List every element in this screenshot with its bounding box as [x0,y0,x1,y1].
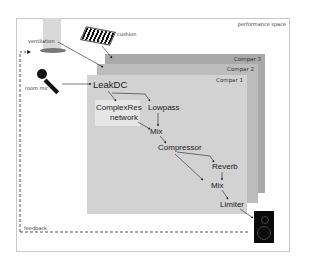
speaker-icon [254,211,274,243]
node-mix-1: Mix [150,127,162,136]
node-limiter: Limiter [220,200,244,209]
cushion-label: cushion [117,31,136,37]
node-lowpass: Lowpass [148,103,180,112]
node-compressor: Compressor [158,143,202,152]
node-reverb: Reverb [212,162,238,171]
microphone-icon [37,69,47,79]
ventilation-label: ventilation [28,38,55,44]
feedback-label: feedback [24,225,47,231]
node-complexres-line1: ComplexRes [96,103,142,112]
node-complexres-line2: network [110,113,138,122]
node-leakdc: LeakDC [93,79,127,90]
compar-3-label: Compar 3 [234,56,261,62]
ventilation-icon [43,18,61,50]
ventilation-base-icon [40,48,66,53]
node-mix-2: Mix [211,181,223,190]
performance-space-label: performance space [238,21,286,27]
compar-1-label: Compar 1 [216,77,243,83]
room-mic-label: room mic [25,85,49,91]
compar-2-label: Compar 2 [227,66,254,72]
